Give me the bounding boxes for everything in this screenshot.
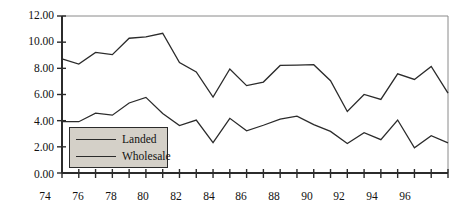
legend-item-landed: Landed: [76, 131, 156, 148]
legend-item-wholesale: Wholesale: [76, 148, 171, 165]
legend: Landed Wholesale: [69, 127, 168, 168]
legend-label-wholesale: Wholesale: [122, 151, 171, 163]
legend-line-swatch-wholesale: [76, 156, 116, 157]
plot-area: [0, 0, 465, 217]
legend-line-swatch-landed: [76, 139, 116, 140]
legend-label-landed: Landed: [122, 134, 156, 146]
chart-container: 12.00 10.00 8.00 6.00 4.00 2.00 0.00 74 …: [0, 0, 465, 217]
